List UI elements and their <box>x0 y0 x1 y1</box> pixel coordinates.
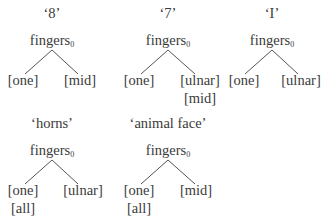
leaf-right-2: [mid] <box>184 91 216 106</box>
tree-root: fingers0 <box>30 143 74 159</box>
leaf-right: [ulnar] <box>63 183 102 198</box>
leaf-left: [one] <box>8 183 39 198</box>
tree-root: fingers0 <box>30 33 74 49</box>
tree-title: ‘8’ <box>44 6 61 21</box>
leaf-right: [mid] <box>64 73 96 88</box>
leaf-right: [ulnar] <box>281 73 320 88</box>
tree-root: fingers0 <box>250 33 294 49</box>
leaf-left: [one] <box>229 73 260 88</box>
leaf-left: [one] <box>8 73 39 88</box>
leaf-right: [ulnar] <box>180 73 219 88</box>
tree-root: fingers0 <box>146 33 190 49</box>
tree-title: ‘I’ <box>265 6 280 21</box>
tree-root: fingers0 <box>146 143 190 159</box>
leaf-left: [one] <box>124 183 155 198</box>
leaf-left: [one] <box>124 73 155 88</box>
leaf-left-2: [all] <box>127 201 151 216</box>
tree-title: ‘7’ <box>160 6 177 21</box>
leaf-left-2: [all] <box>11 201 35 216</box>
tree-title: ‘animal face’ <box>130 116 207 131</box>
tree-title: ‘horns’ <box>31 116 73 131</box>
leaf-right: [mid] <box>180 183 212 198</box>
